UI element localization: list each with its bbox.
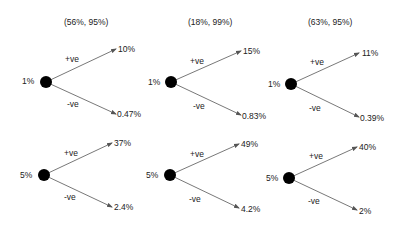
up-arrow [46, 49, 116, 82]
positive-outcome-value: 10% [118, 45, 135, 54]
root-value: 5% [20, 171, 32, 180]
root-value: 1% [22, 77, 34, 86]
up-arrow [171, 51, 241, 82]
root-value: 5% [266, 174, 278, 183]
negative-outcome-value: 0.47% [117, 110, 141, 119]
positive-outcome-value: 37% [114, 139, 131, 148]
negative-outcome-value: 4.2% [241, 205, 260, 214]
root-value: 1% [148, 78, 160, 87]
up-arrow [289, 147, 357, 178]
up-arrow [44, 143, 112, 175]
down-arrow [44, 175, 112, 207]
negative-branch-label: -ve [193, 102, 205, 111]
positive-branch-label: +ve [309, 152, 323, 161]
down-arrow [171, 82, 241, 115]
down-arrow [46, 82, 116, 114]
positive-branch-label: +ve [310, 58, 324, 67]
negative-branch-label: -ve [64, 193, 76, 202]
positive-branch-label: +ve [190, 150, 204, 159]
positive-outcome-value: 40% [359, 143, 376, 152]
positive-outcome-value: 15% [243, 47, 260, 56]
positive-branch-label: +ve [64, 149, 78, 158]
up-arrow [291, 53, 359, 84]
negative-branch-label: -ve [67, 100, 79, 109]
negative-branch-label: -ve [309, 104, 321, 113]
root-node [164, 169, 176, 181]
positive-branch-label: +ve [190, 57, 204, 66]
negative-outcome-value: 2% [359, 207, 371, 216]
down-arrow [289, 178, 357, 210]
negative-outcome-value: 0.39% [360, 114, 384, 123]
positive-outcome-value: 11% [362, 49, 378, 58]
positive-outcome-value: 49% [241, 140, 258, 149]
negative-branch-label: -ve [189, 195, 201, 204]
root-node [285, 78, 297, 90]
column-header-1: (56%, 95%) [64, 18, 108, 27]
negative-branch-label: -ve [308, 197, 320, 206]
root-node [165, 76, 177, 88]
down-arrow [170, 175, 239, 208]
down-arrow [291, 84, 359, 117]
up-arrow [170, 144, 239, 175]
negative-outcome-value: 2.4% [114, 203, 133, 212]
column-header-3: (63%, 95%) [308, 18, 352, 27]
column-header-2: (18%, 99%) [188, 18, 232, 27]
root-node [38, 169, 50, 181]
root-value: 5% [146, 171, 158, 180]
root-node [40, 76, 52, 88]
root-value: 1% [268, 80, 280, 89]
root-node [283, 172, 295, 184]
positive-branch-label: +ve [65, 55, 79, 64]
negative-outcome-value: 0.83% [242, 112, 266, 121]
